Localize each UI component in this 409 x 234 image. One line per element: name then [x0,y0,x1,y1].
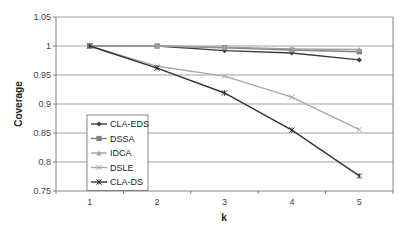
x-axis-title: k [221,212,227,223]
marker-star [357,173,362,178]
x-tick-label: 3 [222,197,227,207]
x-tick-label: 5 [357,197,362,207]
y-tick-label: 1.05 [33,12,51,22]
coverage-line-chart: 0.750.80.850.90.9511.05 12345 Coverage k… [0,0,409,234]
legend-label: CLA-DS [110,177,143,187]
y-tick-label: 0.75 [33,186,51,196]
x-tick-label: 1 [87,197,92,207]
y-tick-label: 0.85 [33,128,51,138]
x-tick-label: 4 [289,197,294,207]
marker-x [357,127,362,132]
y-tick-label: 0.8 [38,157,51,167]
y-tick-label: 1 [46,41,51,51]
x-tick-label: 2 [155,197,160,207]
y-tick-label: 0.95 [33,70,51,80]
legend: CLA-EDSDSSAIDCADSLECLA-DS [87,115,149,191]
marker-square [96,136,101,141]
marker-star [289,128,294,133]
legend-label: CLA-EDS [110,119,149,129]
y-tick-labels: 0.750.80.850.90.9511.05 [33,12,51,196]
y-tick-label: 0.9 [38,99,51,109]
x-tick-labels: 12345 [87,197,362,207]
legend-label: DSLE [110,163,134,173]
legend-label: DSSA [110,134,135,144]
legend-label: IDCA [110,148,132,158]
y-axis-title: Coverage [13,81,24,127]
marker-diamond [357,57,362,62]
